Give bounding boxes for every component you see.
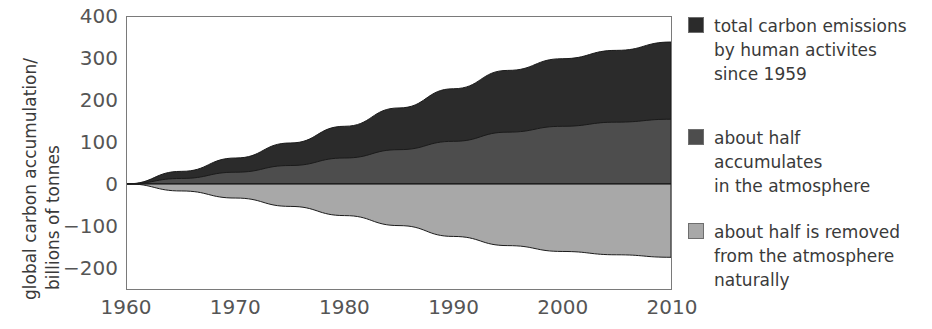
legend-swatch-icon xyxy=(688,129,704,145)
y-axis-title-line1: global carbon accumulation/ xyxy=(22,58,39,300)
y-axis-tick-labels: 4003002001000−100−200 xyxy=(52,0,118,329)
y-tick-label: 200 xyxy=(54,90,118,110)
legend-label: total carbon emissions by human activite… xyxy=(714,14,907,86)
x-axis-tick-labels: 196019701980199020002010 xyxy=(0,296,700,328)
legend-entry[interactable]: about half is removed from the atmospher… xyxy=(688,220,900,292)
y-tick-label: 300 xyxy=(54,48,118,68)
chart-legend: total carbon emissions by human activite… xyxy=(688,8,932,323)
plot-area xyxy=(126,16,672,290)
legend-swatch-icon xyxy=(688,17,704,33)
x-tick-label: 1960 xyxy=(101,296,152,318)
legend-swatch-icon xyxy=(688,223,704,239)
legend-label: about half is removed from the atmospher… xyxy=(714,220,900,292)
chart-figure: global carbon accumulation/ billions of … xyxy=(0,0,932,329)
x-tick-label: 1980 xyxy=(319,296,370,318)
x-tick-label: 2000 xyxy=(537,296,588,318)
legend-entry[interactable]: about half accumulates in the atmosphere xyxy=(688,126,870,198)
area-chart-svg xyxy=(127,17,671,289)
y-tick-label: 0 xyxy=(54,174,118,194)
legend-label: about half accumulates in the atmosphere xyxy=(714,126,870,198)
x-tick-label: 1970 xyxy=(210,296,261,318)
y-tick-label: −100 xyxy=(54,216,118,236)
y-axis-title: global carbon accumulation/ billions of … xyxy=(0,0,56,329)
x-tick-label: 1990 xyxy=(428,296,479,318)
legend-entry[interactable]: total carbon emissions by human activite… xyxy=(688,14,907,86)
y-tick-label: −200 xyxy=(54,258,118,278)
area-band-3 xyxy=(127,184,671,257)
y-tick-label: 100 xyxy=(54,132,118,152)
y-tick-label: 400 xyxy=(54,6,118,26)
